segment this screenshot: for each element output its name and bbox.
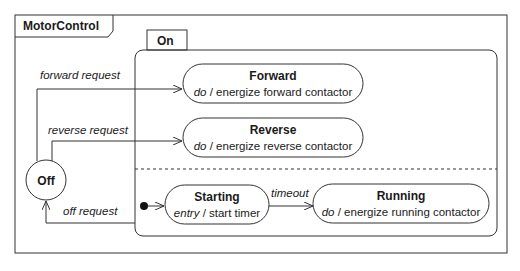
activity-keyword: do (194, 140, 207, 152)
activity-keyword: do (194, 86, 207, 98)
state-forward-name: Forward (249, 69, 296, 83)
activity-text: / energize forward contactor (207, 86, 353, 98)
composite-state-name: On (157, 34, 174, 48)
state-starting-activity: entry / start timer (174, 207, 260, 219)
transition-reverse-request-label: reverse request (48, 124, 129, 136)
activity-text: / start timer (199, 207, 260, 219)
activity-keyword: entry (174, 207, 201, 219)
activity-text: / energize reverse contactor (207, 140, 353, 152)
transition-forward-request-label: forward request (40, 69, 121, 81)
transition-off-request-label: off request (63, 205, 118, 217)
state-running-name: Running (377, 189, 426, 203)
state-machine-diagram: MotorControl On Forward do / energize fo… (0, 0, 520, 271)
state-forward-activity: do / energize forward contactor (194, 86, 353, 98)
state-reverse-name: Reverse (250, 123, 297, 137)
activity-text: / energize running contactor (335, 206, 481, 218)
state-reverse-activity: do / energize reverse contactor (194, 140, 353, 152)
frame-title: MotorControl (23, 19, 99, 33)
state-running-activity: do / energize running contactor (322, 206, 481, 218)
transition-reverse-request[interactable] (52, 141, 182, 161)
state-starting-name: Starting (194, 190, 239, 204)
initial-pseudostate (140, 202, 148, 210)
state-off-name: Off (37, 174, 55, 188)
activity-keyword: do (322, 206, 335, 218)
transition-timeout-label: timeout (271, 187, 310, 199)
